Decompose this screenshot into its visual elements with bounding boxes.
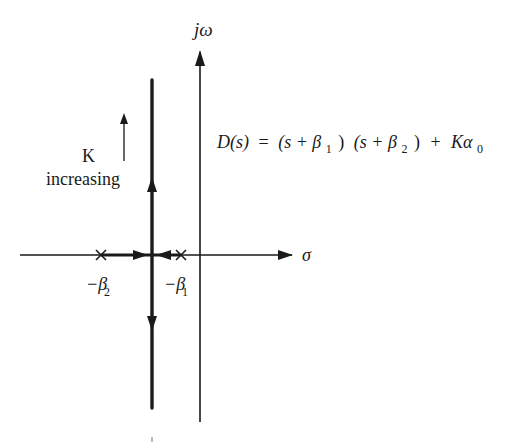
- k-increasing-arrow-icon: [120, 113, 128, 161]
- locus-arrow-down-icon: [147, 316, 157, 331]
- equation-lhs: D(s): [216, 132, 249, 153]
- svg-text:2: 2: [104, 285, 110, 299]
- real-axis-arrow-icon: [278, 250, 293, 260]
- imaginary-axis-label: jω: [191, 19, 213, 40]
- imaginary-axis: [195, 50, 205, 422]
- characteristic-equation: D(s) = (s + β 1 ) (s + β 2 ) + Kα 0: [216, 132, 483, 157]
- pole-label-beta1: −β 1: [164, 274, 188, 299]
- svg-text:D(s) = (s + β: D(s) = (s + β 1 ) (s + β 2 ) + Kα 0: [216, 132, 483, 157]
- increasing-label: increasing: [46, 169, 120, 189]
- svg-text:1: 1: [182, 285, 188, 299]
- locus-real-segment: [101, 250, 181, 260]
- real-axis-label: σ: [302, 245, 312, 265]
- pole-label-beta2: −β 2: [86, 274, 110, 299]
- k-label: K: [82, 146, 95, 166]
- locus-arrow-left-icon: [156, 250, 171, 260]
- root-locus-diagram: jω σ K increasing −β 2 −β 1 D(s) = (s + …: [0, 0, 511, 446]
- locus-arrow-up-icon: [147, 177, 157, 192]
- imaginary-axis-arrow-icon: [195, 50, 205, 66]
- locus-vertical-branch: [147, 80, 157, 408]
- locus-arrow-right-icon: [133, 250, 148, 260]
